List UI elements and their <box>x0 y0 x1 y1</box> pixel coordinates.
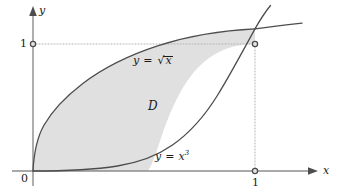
curve-sqrt-x-extension <box>255 23 302 29</box>
x-tick-label-1: 1 <box>252 177 259 188</box>
curve-label-x-cubed-exponent: 3 <box>185 149 189 157</box>
plot-canvas <box>0 0 340 196</box>
x-axis-arrow-icon <box>308 167 318 175</box>
math-figure: x y 0 1 1 y=√x y=x3 D <box>0 0 340 196</box>
radical-bar <box>163 56 173 57</box>
y-axis-arrow-icon <box>29 6 37 16</box>
y-axis-label: y <box>39 5 45 16</box>
point-intersection-1-1 <box>252 41 257 46</box>
curve-label-sqrt-x: y=√x <box>133 55 173 66</box>
sqrt-radical-icon: √x <box>156 55 172 66</box>
curve-label-x-cubed: y=x3 <box>155 150 189 162</box>
origin-label: 0 <box>21 173 28 184</box>
point-y-equals-1 <box>30 41 35 46</box>
curve-label-sqrt-x-equals: = <box>143 54 152 67</box>
y-tick-label-1: 1 <box>20 38 27 49</box>
region-label-d: D <box>148 100 158 112</box>
point-x-equals-1 <box>252 168 257 173</box>
curve-label-x-cubed-equals: = <box>165 150 174 163</box>
curve-label-sqrt-x-lhs: y <box>133 54 139 67</box>
curve-label-x-cubed-lhs: y <box>155 150 161 163</box>
x-axis-label: x <box>323 165 329 176</box>
